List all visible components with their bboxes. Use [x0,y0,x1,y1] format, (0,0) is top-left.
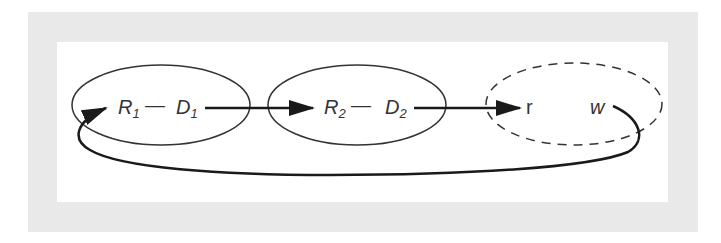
label-r1: R1 [118,96,140,121]
connector-2: — [351,94,371,116]
label-d2: D2 [385,96,407,121]
group3-dashed-ellipse [486,63,662,145]
label-r2: R2 [324,96,346,121]
connector-1: — [145,94,165,116]
feedback-arrow-w-to-r1 [79,106,640,175]
label-d1: D1 [176,96,198,121]
label-r: r [526,96,533,118]
label-w: w [590,96,606,118]
cycle-diagram: R1 — D1 R2 — D2 r w [0,0,721,243]
